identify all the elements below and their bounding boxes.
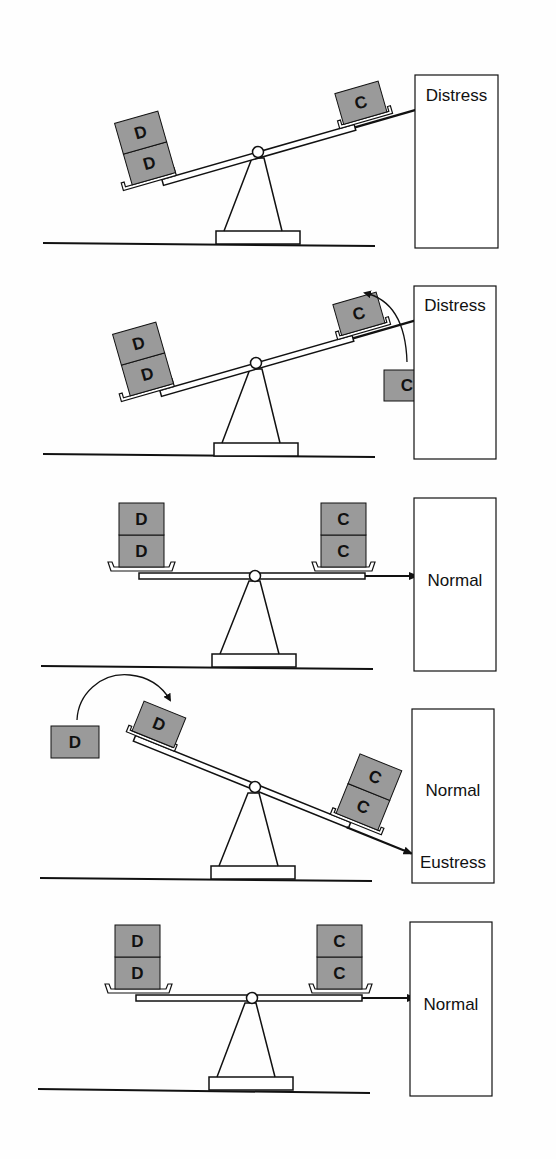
state-label: Normal bbox=[426, 781, 481, 800]
seesaw-stress-diagram: D D C Distress bbox=[0, 0, 556, 1159]
state-label-secondary: Eustress bbox=[420, 853, 486, 872]
fulcrum-base bbox=[216, 231, 300, 244]
svg-text:D: D bbox=[69, 733, 81, 752]
fulcrum-base bbox=[212, 654, 296, 667]
fulcrum-stand bbox=[217, 1003, 275, 1077]
moving-demand-block: D bbox=[51, 726, 99, 758]
panel-2: D D C C Distress bbox=[43, 248, 496, 459]
state-label: Distress bbox=[424, 296, 485, 315]
fulcrum-stand bbox=[224, 158, 282, 231]
demand-block: D bbox=[115, 925, 160, 957]
pivot-icon bbox=[247, 993, 258, 1004]
demand-block: D bbox=[119, 535, 164, 567]
coping-block: C bbox=[317, 957, 362, 989]
ground-line bbox=[38, 1089, 370, 1093]
svg-text:C: C bbox=[333, 964, 345, 983]
seesaw-beam bbox=[133, 736, 350, 828]
ground-line bbox=[40, 878, 372, 881]
panel-4: D C C D Normal Eustress bbox=[40, 670, 494, 883]
ground-line bbox=[41, 666, 373, 669]
svg-text:C: C bbox=[337, 510, 349, 529]
state-label: Normal bbox=[424, 995, 479, 1014]
fulcrum-stand bbox=[220, 581, 279, 654]
coping-block: C bbox=[321, 535, 366, 567]
fulcrum-stand bbox=[219, 793, 278, 866]
svg-text:D: D bbox=[135, 542, 147, 561]
pivot-icon bbox=[253, 147, 264, 158]
panel-1: D D C Distress bbox=[43, 37, 498, 248]
svg-text:D: D bbox=[135, 510, 147, 529]
demand-block: D bbox=[115, 957, 160, 989]
fulcrum-base bbox=[209, 1077, 293, 1090]
svg-text:C: C bbox=[401, 376, 413, 395]
ground-line bbox=[43, 454, 375, 457]
pivot-icon bbox=[250, 571, 261, 582]
pivot-icon bbox=[251, 358, 262, 369]
fulcrum-base bbox=[214, 443, 298, 456]
ground-line bbox=[43, 243, 375, 246]
svg-text:D: D bbox=[131, 932, 143, 951]
fulcrum-base bbox=[211, 866, 295, 879]
svg-text:C: C bbox=[333, 932, 345, 951]
coping-block: C bbox=[321, 503, 366, 535]
pivot-icon bbox=[250, 782, 261, 793]
panel-5: D D C C Normal bbox=[38, 922, 492, 1096]
coping-block: C bbox=[317, 925, 362, 957]
panel-3: D D C C Normal bbox=[41, 498, 496, 671]
state-label: Distress bbox=[426, 86, 487, 105]
state-label: Normal bbox=[428, 571, 483, 590]
svg-text:D: D bbox=[131, 964, 143, 983]
svg-text:C: C bbox=[337, 542, 349, 561]
demand-block: D bbox=[119, 503, 164, 535]
fulcrum-stand bbox=[222, 369, 280, 443]
